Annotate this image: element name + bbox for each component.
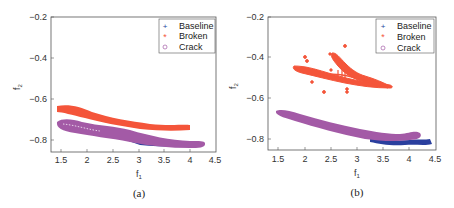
xtick-a-6: 4.5 (209, 155, 222, 165)
star-marker-icon: * (381, 32, 385, 42)
ytick-a-1: −0.4 (29, 53, 47, 63)
x-axis-b: 1.5 2 2.5 3 3.5 4 4.5 f1 (272, 147, 442, 179)
plus-marker-icon: + (381, 22, 386, 31)
y-axis-a: −0.2 −0.4 −0.6 −0.8 f2 (12, 12, 54, 145)
panel-a: −0.2 −0.4 −0.6 −0.8 f2 1.5 2 2.5 3 3.5 4… (12, 12, 221, 200)
ytick-a-2: −0.6 (29, 94, 47, 104)
star-marker-icon: * (163, 32, 167, 42)
panel-b: −0.2 −0.4 −0.6 −0.8 f2 1.5 2 2.5 3 3.5 4… (228, 12, 441, 199)
xtick-b-3: 3 (354, 154, 359, 164)
xlabel-a: f1 (136, 169, 143, 180)
xtick-b-6: 4.5 (429, 154, 442, 164)
legend-b-baseline: Baseline (397, 21, 432, 31)
xtick-a-1: 2 (84, 155, 89, 165)
xtick-b-0: 1.5 (272, 154, 285, 164)
xtick-b-1: 2 (302, 154, 307, 164)
ytick-b-2: −0.6 (246, 93, 264, 103)
xtick-b-5: 4 (406, 154, 411, 164)
xtick-a-3: 3 (136, 155, 141, 165)
legend-a: + Baseline * Broken Crack (159, 19, 215, 53)
legend-b-broken: Broken (397, 32, 426, 42)
ytick-b-1: −0.4 (246, 52, 264, 62)
ylabel-a: f2 (12, 83, 23, 90)
xtick-a-2: 2.5 (107, 155, 120, 165)
xtick-b-4: 3.5 (377, 154, 390, 164)
ytick-b-0: −0.2 (246, 12, 264, 22)
legend-a-crack: Crack (179, 42, 203, 52)
ylabel-b: f2 (228, 82, 239, 89)
ytick-b-3: −0.8 (246, 134, 264, 144)
legend-b: + Baseline * Broken Crack (376, 19, 434, 53)
xtick-a-0: 1.5 (55, 155, 68, 165)
x-axis-a: 1.5 2 2.5 3 3.5 4 4.5 f1 (55, 149, 222, 180)
caption-a: (a) (133, 187, 146, 200)
caption-b: (b) (351, 186, 364, 199)
legend-b-crack: Crack (397, 43, 421, 53)
plus-marker-icon: + (163, 22, 168, 31)
y-axis-b: −0.2 −0.4 −0.6 −0.8 f2 (228, 12, 271, 144)
xtick-b-2: 2.5 (325, 154, 338, 164)
xtick-a-5: 4 (187, 155, 192, 165)
xtick-a-4: 3.5 (158, 155, 171, 165)
ytick-a-0: −0.2 (29, 12, 47, 22)
ytick-a-3: −0.8 (29, 135, 47, 145)
legend-a-broken: Broken (179, 31, 208, 41)
figure: −0.2 −0.4 −0.6 −0.8 f2 1.5 2 2.5 3 3.5 4… (0, 0, 454, 208)
legend-a-baseline: Baseline (179, 21, 214, 31)
xlabel-b: f1 (354, 168, 361, 179)
